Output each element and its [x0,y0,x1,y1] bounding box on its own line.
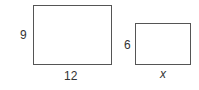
large-rectangle-width-label: 12 [64,70,77,82]
small-rectangle-height-label: 6 [124,39,131,51]
large-rectangle [33,5,112,65]
large-rectangle-height-label: 9 [20,29,27,41]
small-rectangle-width-label: x [160,68,166,80]
small-rectangle [135,23,191,65]
